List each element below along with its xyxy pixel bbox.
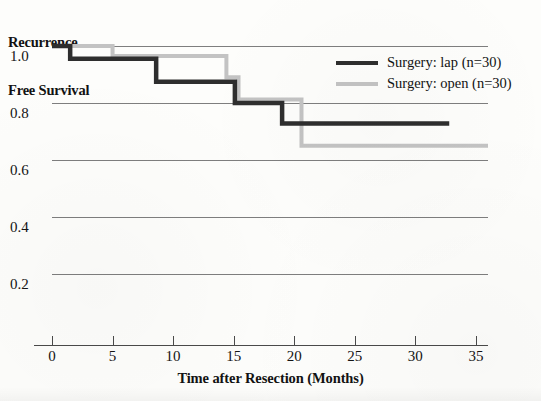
x-tick-label-0: 0 bbox=[48, 348, 56, 365]
x-tick-35 bbox=[476, 336, 477, 345]
x-axis-title: Time after Resection (Months) bbox=[0, 370, 541, 387]
x-tick-label-10: 10 bbox=[166, 348, 181, 365]
x-tick-0 bbox=[52, 336, 53, 345]
x-tick-30 bbox=[415, 336, 416, 345]
x-tick-label-35: 35 bbox=[468, 348, 483, 365]
x-tick-label-15: 15 bbox=[226, 348, 241, 365]
x-tick-label-5: 5 bbox=[109, 348, 117, 365]
x-tick-label-25: 25 bbox=[347, 348, 362, 365]
x-tick-20 bbox=[294, 336, 295, 345]
y-tick-label-0.8: 0.8 bbox=[10, 105, 29, 122]
x-tick-15 bbox=[234, 336, 235, 345]
x-tick-label-30: 30 bbox=[408, 348, 423, 365]
gridline-0.2 bbox=[52, 274, 488, 275]
x-tick-label-20: 20 bbox=[287, 348, 302, 365]
y-tick-label-0.6: 0.6 bbox=[10, 162, 29, 179]
x-axis-line bbox=[34, 345, 488, 346]
y-tick-label-1.0: 1.0 bbox=[10, 48, 29, 65]
legend-swatch-lap-icon bbox=[336, 61, 378, 65]
y-tick-label-0.4: 0.4 bbox=[10, 219, 29, 236]
x-tick-5 bbox=[113, 336, 114, 345]
legend-label-lap: Surgery: lap (n=30) bbox=[387, 54, 501, 71]
legend-item-open: Surgery: open (n=30) bbox=[336, 73, 512, 94]
x-tick-25 bbox=[355, 336, 356, 345]
scan-edge-smudge bbox=[0, 387, 541, 401]
chart-legend: Surgery: lap (n=30) Surgery: open (n=30) bbox=[336, 52, 512, 94]
chart-root: Recurrence Free Survival 1.00.80.60.40.2… bbox=[0, 0, 541, 401]
y-tick-label-0.2: 0.2 bbox=[10, 276, 29, 293]
legend-swatch-open-icon bbox=[336, 82, 378, 86]
x-tick-10 bbox=[173, 336, 174, 345]
legend-item-lap: Surgery: lap (n=30) bbox=[336, 52, 512, 73]
legend-label-open: Surgery: open (n=30) bbox=[387, 75, 512, 92]
